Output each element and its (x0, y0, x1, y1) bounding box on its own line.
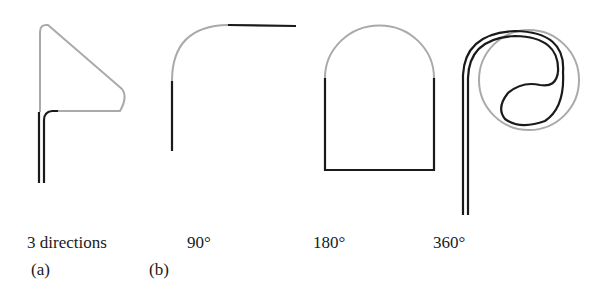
panel-tag-b: (b) (149, 260, 169, 280)
shape-180-degree (325, 26, 434, 170)
shape-3-directions (39, 25, 125, 183)
caption-180-degree: 180° (313, 233, 345, 253)
gray-arc-90 (172, 25, 228, 81)
shape-360-degree (463, 30, 579, 215)
diagram-canvas (0, 0, 590, 301)
dark-u-segment (325, 78, 434, 170)
shape-90-degree (172, 25, 296, 151)
dark-inner-tail (44, 111, 58, 183)
caption-90-degree: 90° (187, 233, 211, 253)
dark-horizontal-segment (228, 25, 296, 26)
caption-3-directions: 3 directions (27, 233, 107, 253)
gray-arc-180 (325, 26, 434, 78)
gray-triangle-path (40, 25, 125, 112)
caption-360-degree: 360° (433, 233, 465, 253)
dark-spiral-inner (501, 72, 563, 125)
panel-tag-a: (a) (31, 260, 50, 280)
